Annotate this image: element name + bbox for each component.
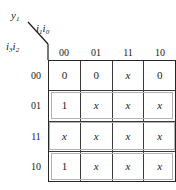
kmap-cell-r3c0: 1: [49, 152, 81, 181]
column-header-0: 00: [48, 46, 80, 60]
kmap-cell-r2c2: x: [113, 122, 145, 151]
row-header-2: 11: [24, 121, 48, 152]
column-header-2: 11: [112, 46, 144, 60]
karnaugh-map-figure: y1 i1i0 i3i2 00 01 11 10 00 01 11 10 0 0…: [0, 0, 176, 190]
table-row: 1 x x x: [49, 91, 175, 121]
row-variables-label: i3i2: [6, 41, 19, 52]
kmap-cell-r1c2: x: [113, 91, 145, 120]
row-header-column: 00 01 11 10: [24, 60, 48, 182]
kmap-grid: 0 0 x 0 1 x x x x x x x 1 x x x: [48, 60, 176, 182]
kmap-cell-r3c2: x: [113, 152, 145, 181]
kmap-cell-r2c0: x: [49, 122, 81, 151]
kmap-cell-r0c3: 0: [144, 61, 175, 90]
output-variable-label: y1: [11, 10, 19, 21]
table-row: x x x x: [49, 122, 175, 152]
table-row: 1 x x x: [49, 152, 175, 181]
row-header-0: 00: [24, 60, 48, 91]
column-header-3: 10: [144, 46, 176, 60]
column-header-1: 01: [80, 46, 112, 60]
kmap-cell-r3c1: x: [81, 152, 113, 181]
row-variable-2-subscript: 2: [16, 46, 20, 54]
kmap-cell-r1c0: 1: [49, 91, 81, 120]
kmap-cell-r2c3: x: [144, 122, 175, 151]
column-variables-label: i1i0: [36, 23, 49, 34]
column-variable-1-subscript: 1: [39, 28, 43, 36]
kmap-cell-r0c2: x: [113, 61, 145, 90]
row-header-1: 01: [24, 91, 48, 122]
row-header-3: 10: [24, 152, 48, 183]
kmap-cell-r1c3: x: [144, 91, 175, 120]
output-variable-subscript: 1: [16, 15, 20, 23]
kmap-cell-r2c1: x: [81, 122, 113, 151]
column-variable-2-subscript: 0: [46, 28, 50, 36]
column-header-row: 00 01 11 10: [48, 46, 176, 60]
table-row: 0 0 x 0: [49, 61, 175, 91]
kmap-cell-r3c3: x: [144, 152, 175, 181]
kmap-cell-r0c1: 0: [81, 61, 113, 90]
row-variable-1-subscript: 3: [9, 46, 13, 54]
kmap-cell-r0c0: 0: [49, 61, 81, 90]
kmap-cell-r1c1: x: [81, 91, 113, 120]
